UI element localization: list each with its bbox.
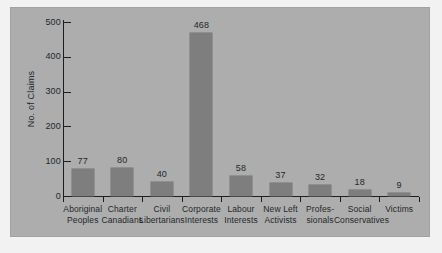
category-label-line: Victims (373, 204, 425, 215)
y-axis-tick-labels: 0100200300400500 (19, 8, 61, 236)
x-axis-tick (142, 197, 143, 202)
x-axis-tick (379, 197, 380, 202)
y-axis-tick-label: 100 (27, 157, 61, 166)
category-label-line: Conservatives (334, 215, 386, 226)
x-axis-tick (103, 197, 104, 202)
y-axis-tick-label: 300 (27, 87, 61, 96)
bar[interactable] (309, 185, 331, 196)
x-axis-tick (182, 197, 183, 202)
y-axis-tick-label: 500 (27, 18, 61, 27)
x-axis-tick (261, 197, 262, 202)
y-axis-tick (64, 196, 71, 197)
plot-area: 778040468583732189 (63, 22, 418, 196)
bar[interactable] (270, 183, 292, 196)
bar[interactable] (388, 193, 410, 196)
x-axis-line (63, 196, 419, 197)
x-axis-tick (63, 197, 64, 202)
bar-value-label: 58 (221, 164, 261, 173)
bar[interactable] (349, 190, 371, 196)
chart-figure: No. of Claims 0100200300400500 778040468… (0, 0, 442, 253)
bar-value-label: 468 (181, 21, 221, 30)
x-axis-category-labels: AboriginalPeoplesCharterCanadiansCivilLi… (63, 204, 419, 236)
bar-value-label: 32 (300, 173, 340, 182)
bar[interactable] (230, 176, 252, 196)
bar-value-label: 80 (102, 156, 142, 165)
y-axis-tick-label: 0 (27, 192, 61, 201)
bar-value-label: 40 (142, 170, 182, 179)
bar-value-label: 9 (379, 181, 419, 190)
bar[interactable] (151, 182, 173, 196)
bar[interactable] (72, 169, 94, 196)
x-axis-tick (340, 197, 341, 202)
bar-value-label: 77 (63, 157, 103, 166)
x-axis-tick (419, 197, 420, 202)
chart-panel: No. of Claims 0100200300400500 778040468… (11, 8, 429, 236)
bar[interactable] (111, 168, 133, 196)
bar[interactable] (190, 33, 212, 196)
bar-value-label: 18 (340, 178, 380, 187)
bar-value-label: 37 (261, 171, 301, 180)
x-axis-tick (300, 197, 301, 202)
x-axis-category-label: Victims (373, 204, 425, 215)
y-axis-tick-label: 200 (27, 122, 61, 131)
y-axis-tick-label: 400 (27, 52, 61, 61)
x-axis-tick (221, 197, 222, 202)
